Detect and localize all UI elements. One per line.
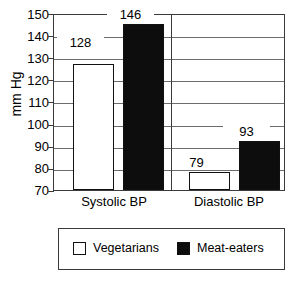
y-tick-label-110: 110 [28,96,49,109]
legend-swatch-vegetarians [73,242,86,255]
y-tick-label-120: 120 [27,74,49,87]
y-axis-label: mm Hg [8,59,24,129]
x-tick-label-systolic: Systolic BP [58,194,170,209]
bar-value-systolic-meat-eaters: 146 [107,8,154,21]
bar-diastolic-meat-eaters[interactable] [239,141,280,190]
bar-value-systolic-vegetarians: 128 [57,36,104,49]
y-tick-label-70: 70 [35,184,49,197]
group-separator-line [171,15,172,190]
y-tick-label-80: 80 [35,162,49,175]
legend-swatch-meat-eaters [177,242,190,255]
chart-legend: Vegetarians Meat-eaters [58,228,285,270]
x-tick-label-diastolic: Diastolic BP [172,194,286,209]
y-tick-mark-70 [48,191,54,192]
legend-label-meat-eaters: Meat-eaters [197,241,264,255]
y-tick-label-140: 140 [27,30,49,43]
legend-item-vegetarians[interactable]: Vegetarians [73,241,159,255]
gridline-130 [54,59,284,60]
bar-systolic-meat-eaters[interactable] [123,24,164,190]
y-tick-label-100: 100 [27,118,49,131]
y-tick-label-90: 90 [35,140,49,153]
bar-chart-figure: mm Hg 150 140 130 120 110 100 90 80 70 1… [0,0,302,293]
bar-systolic-vegetarians[interactable] [73,64,114,190]
legend-label-vegetarians: Vegetarians [93,241,159,255]
legend-item-meat-eaters[interactable]: Meat-eaters [177,241,264,255]
bar-value-diastolic-vegetarians: 79 [173,156,220,169]
y-tick-label-130: 130 [27,52,49,65]
bar-diastolic-vegetarians[interactable] [189,172,230,190]
y-tick-label-150: 150 [27,8,49,21]
bar-value-diastolic-meat-eaters: 93 [223,125,270,138]
